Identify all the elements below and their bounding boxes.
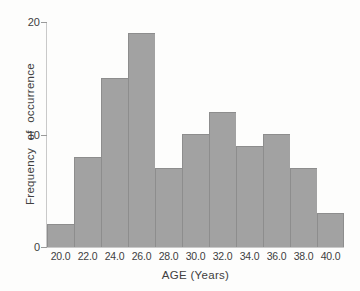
histogram-bar-32.0 xyxy=(209,112,236,247)
x-tick-label-26.0: 26.0 xyxy=(128,250,155,262)
x-tick-label-34.0: 34.0 xyxy=(236,250,263,262)
y-tick-label-0: 0 xyxy=(18,240,40,254)
histogram-figure: Frequency of occurrence 01020 20.022.024… xyxy=(0,0,360,291)
x-axis-tick-labels: 20.022.024.026.028.030.032.034.036.038.0… xyxy=(47,250,344,262)
x-tick-label-32.0: 32.0 xyxy=(209,250,236,262)
x-tick-label-24.0: 24.0 xyxy=(101,250,128,262)
histogram-bar-28.0 xyxy=(155,168,182,247)
histogram-bar-22.0 xyxy=(74,157,101,247)
x-tick-label-38.0: 38.0 xyxy=(290,250,317,262)
y-tick-label-20: 20 xyxy=(18,15,40,29)
y-tick-label-10: 10 xyxy=(18,128,40,142)
x-axis-line xyxy=(46,247,344,248)
x-tick-label-22.0: 22.0 xyxy=(74,250,101,262)
histogram-bar-30.0 xyxy=(182,134,209,247)
plot-area xyxy=(47,22,344,247)
y-tick-mark-0 xyxy=(41,247,47,248)
histogram-bar-36.0 xyxy=(263,134,290,247)
histogram-bar-38.0 xyxy=(290,168,317,247)
x-tick-label-28.0: 28.0 xyxy=(155,250,182,262)
histogram-bar-40.0 xyxy=(317,213,344,247)
histogram-bar-26.0 xyxy=(128,33,155,247)
histogram-bar-34.0 xyxy=(236,146,263,247)
x-axis-title: AGE (Years) xyxy=(47,269,344,281)
histogram-bar-24.0 xyxy=(101,78,128,247)
x-tick-label-36.0: 36.0 xyxy=(263,250,290,262)
x-tick-label-30.0: 30.0 xyxy=(182,250,209,262)
histogram-bar-20.0 xyxy=(47,224,74,247)
x-tick-label-20.0: 20.0 xyxy=(47,250,74,262)
x-tick-label-40.0: 40.0 xyxy=(317,250,344,262)
